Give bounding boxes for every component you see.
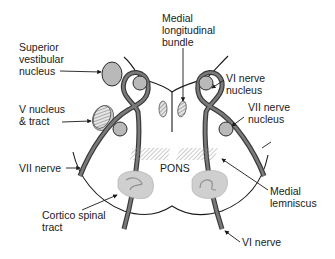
label-medial-lemniscus: Medial lemniscus	[270, 185, 317, 209]
svg-text:& tract: & tract	[19, 115, 49, 127]
label-vi-nerve-nucleus: VI nerve nucleus	[226, 72, 265, 96]
medial-longitudinal-bundle-right	[176, 100, 187, 117]
superior-vestibular-nucleus	[102, 62, 122, 86]
svg-text:V nucleus: V nucleus	[19, 103, 65, 115]
label-medial-longitudinal-bundle: Medial longitudinal bundle	[162, 12, 215, 48]
vii-nerve-nucleus-left	[113, 122, 127, 136]
svg-text:lemniscus: lemniscus	[270, 197, 317, 209]
label-vi-nerve: VI nerve	[242, 236, 281, 248]
label-cortico-spinal-tract: Cortico spinal tract	[42, 209, 106, 233]
label-vii-nerve: VII nerve	[19, 162, 61, 174]
svg-text:VI nerve: VI nerve	[226, 72, 265, 84]
svg-text:bundle: bundle	[162, 36, 194, 48]
svg-text:Medial: Medial	[162, 12, 193, 24]
medial-lemniscus-right	[176, 148, 218, 160]
medial-lemniscus-left	[130, 148, 170, 160]
label-vii-nerve-nucleus: VII nerve nucleus	[248, 101, 290, 125]
vi-nerve-nucleus-left	[133, 76, 147, 90]
svg-text:VII nerve: VII nerve	[248, 101, 290, 113]
label-v-nucleus-tract: V nucleus & tract	[19, 103, 65, 127]
vii-nerve-nucleus-right	[219, 122, 233, 136]
cortico-spinal-tract-left	[118, 171, 153, 198]
svg-text:longitudinal: longitudinal	[162, 24, 215, 36]
medial-longitudinal-bundle-left	[159, 101, 167, 117]
svg-text:nucleus: nucleus	[248, 113, 284, 125]
vi-nerve-nucleus-right	[199, 76, 213, 90]
svg-text:Superior: Superior	[19, 41, 59, 53]
svg-text:Cortico spinal: Cortico spinal	[42, 209, 106, 221]
label-superior-vestibular-nucleus: Superior vestibular nucleus	[19, 41, 64, 77]
pons-label: PONS	[160, 162, 190, 174]
svg-text:nucleus: nucleus	[19, 65, 55, 77]
pons-diagram: PONS Medial longitudinal bundle Superior…	[0, 0, 335, 259]
svg-text:Medial: Medial	[270, 185, 301, 197]
svg-text:vestibular: vestibular	[19, 53, 64, 65]
svg-text:tract: tract	[42, 221, 63, 233]
cortico-spinal-tract-right	[192, 170, 228, 198]
svg-text:nucleus: nucleus	[226, 84, 262, 96]
